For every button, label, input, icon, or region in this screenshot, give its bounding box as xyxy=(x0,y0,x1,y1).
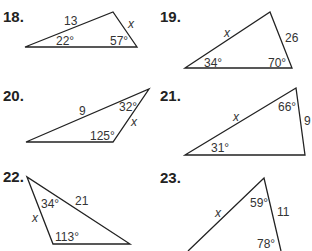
angle-label: 70° xyxy=(268,56,286,70)
angle-label: 32° xyxy=(119,100,137,114)
problem-21: 21. 66° x 9 31° xyxy=(160,87,311,155)
triangle-worksheet: 18. 13 x 22° 57° 19. x 26 34° 70° 20. 9 … xyxy=(0,0,312,251)
side-label: 13 xyxy=(64,14,78,28)
variable-label: x xyxy=(127,17,135,31)
angle-label: 113° xyxy=(55,230,79,244)
variable-label: x xyxy=(223,26,231,40)
side-label: 11 xyxy=(277,205,290,219)
angle-label: 57° xyxy=(110,34,128,48)
problem-number: 22. xyxy=(3,168,24,185)
problem-number: 23. xyxy=(160,169,181,186)
angle-label: 125° xyxy=(90,129,115,143)
side-label: 26 xyxy=(285,31,299,45)
angle-label: 34° xyxy=(41,197,59,211)
side-label: 9 xyxy=(79,104,86,118)
variable-label: x xyxy=(31,211,39,225)
triangle xyxy=(185,88,305,155)
problem-23: 23. 59° x 11 78° xyxy=(160,169,290,251)
problem-22: 22. 34° 21 x 113° xyxy=(3,168,130,244)
side-label: 21 xyxy=(75,194,89,208)
side-label: 9 xyxy=(304,114,311,128)
angle-label: 34° xyxy=(204,56,222,70)
angle-label: 78° xyxy=(257,237,275,251)
variable-label: x xyxy=(232,110,240,124)
variable-label: x xyxy=(214,206,222,220)
problem-number: 20. xyxy=(3,87,24,104)
problem-19: 19. x 26 34° 70° xyxy=(160,8,299,70)
problem-number: 19. xyxy=(160,8,181,25)
angle-label: 31° xyxy=(211,141,229,155)
variable-label: x xyxy=(130,115,138,129)
problem-20: 20. 9 32° x 125° xyxy=(3,87,149,143)
angle-label: 22° xyxy=(56,34,74,48)
problem-18: 18. 13 x 22° 57° xyxy=(3,8,137,48)
angle-label: 59° xyxy=(250,196,268,210)
problem-number: 21. xyxy=(160,87,181,104)
problem-number: 18. xyxy=(3,8,24,25)
angle-label: 66° xyxy=(278,100,296,114)
